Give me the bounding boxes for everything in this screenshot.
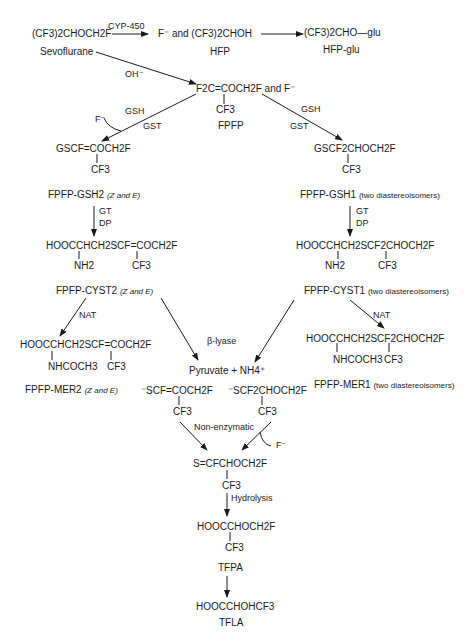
hfp-formula: F⁻ and (CF3)2CHOH <box>158 28 252 39</box>
sevoflurane-name: Sevoflurane <box>40 46 93 57</box>
gsh1-gt-label: GT <box>356 206 369 217</box>
cyst2-nat-label: NAT <box>79 310 96 321</box>
sevoflurane-formula: (CF3)2CHOCH2F <box>32 28 111 39</box>
tfpa-name: TFPA <box>218 562 243 573</box>
mer2-name: FPFP-MER2 (Z and E) <box>25 384 118 396</box>
right-gst-label: GST <box>290 121 309 132</box>
mer1-branch-cf3: CF3 <box>384 354 403 365</box>
mer2-formula: HOOCCHCH2SCF=COCH2F <box>20 339 151 350</box>
pyruvate-products: Pyruvate + NH4⁺ <box>189 365 265 376</box>
cyst2-branch-amine: NH2 <box>74 260 94 271</box>
fluoride-label-left: F⁻ <box>95 114 106 125</box>
left-gst-label: GST <box>143 121 162 132</box>
tfpa-branch: CF3 <box>225 542 244 553</box>
mer1-branch-acetamide: NHCOCH3 <box>333 354 382 365</box>
hydroxide-label: OH⁻ <box>125 69 144 80</box>
gsh1-formula: GSCF2CHOCH2F <box>314 143 396 154</box>
tfla-name: TFLA <box>219 617 243 628</box>
gsh1-dp-label: DP <box>356 218 369 229</box>
right-gsh-label: GSH <box>301 104 321 115</box>
thiolate-right-branch: CF3 <box>258 406 277 417</box>
cyst1-formula: HOOCCHCH2SCF2CHOCH2F <box>296 240 434 251</box>
gsh2-name: FPFP-GSH2 (Z and E) <box>48 189 140 201</box>
cyst1-branch-amine: NH2 <box>325 260 345 271</box>
hfp-name: HFP <box>210 46 230 57</box>
beta-lyase-label: β-lyase <box>207 336 236 347</box>
gsh2-formula: GSCF=COCH2F <box>56 143 131 154</box>
cyst1-nat-label: NAT <box>373 310 390 321</box>
tfpa-formula: HOOCCHOCH2F <box>197 521 275 532</box>
gsh2-branch: CF3 <box>91 164 110 175</box>
fpfp-branch: CF3 <box>216 104 235 115</box>
fpfp-formula: F2C=COCH2F and F⁻ <box>196 83 295 94</box>
mer1-formula: HOOCCHCH2SCF2CHOCH2F <box>306 333 444 344</box>
thioacyl-branch: CF3 <box>222 480 241 491</box>
non-enzymatic-label: Non-enzymatic <box>194 422 254 433</box>
hfp-glu-name: HFP-glu <box>323 44 360 55</box>
thiolate-left-formula: ⁻SCF=COCH2F <box>141 385 213 396</box>
thiolate-right-formula: ⁻SCF2CHOCH2F <box>228 385 307 396</box>
mer2-branch-cf3: CF3 <box>107 361 126 372</box>
cyst2-name: FPFP-CYST2 (Z and E) <box>56 285 153 297</box>
mer1-name: FPFP-MER1 (two diastereoisomers) <box>314 379 454 391</box>
hfp-glu-formula: (CF3)2CHO—glu <box>304 27 381 38</box>
cyst2-branch-cf3: CF3 <box>132 260 151 271</box>
mer2-branch-acetamide: NHCOCH3 <box>48 361 97 372</box>
left-gsh-label: GSH <box>125 106 145 117</box>
fluoride-label-right: F⁻ <box>276 440 287 451</box>
hydrolysis-label: Hydrolysis <box>231 493 273 504</box>
gsh2-gt-label: GT <box>99 206 112 217</box>
thiolate-left-branch: CF3 <box>173 406 192 417</box>
cyp450-label: CYP-450 <box>108 21 145 32</box>
gsh1-branch: CF3 <box>342 164 361 175</box>
fpfp-name: FPFP <box>218 120 244 131</box>
gsh1-name: FPFP-GSH1 (two diastereoisomers) <box>300 189 440 201</box>
cyst1-branch-cf3: CF3 <box>378 260 397 271</box>
cyst1-name: FPFP-CYST1 (two diastereoisomers) <box>304 285 449 297</box>
thioacyl-formula: S=CFCHOCH2F <box>193 458 267 469</box>
tfla-formula: HOOCCHOHCF3 <box>196 601 274 612</box>
cyst2-formula: HOOCCHCH2SCF=COCH2F <box>46 240 177 251</box>
gsh2-dp-label: DP <box>99 218 112 229</box>
